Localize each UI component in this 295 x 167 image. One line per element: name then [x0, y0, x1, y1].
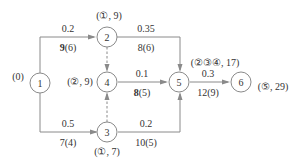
- edge-3-5: 0.2 10(5): [118, 92, 183, 149]
- node-6-label: 6: [239, 77, 244, 88]
- node-3: 3 (①, 7): [94, 122, 120, 158]
- arrowhead-icon: [222, 80, 230, 85]
- arrowhead-icon: [88, 35, 96, 40]
- node-1-label: 1: [38, 78, 43, 89]
- node-1: 1 (0): [12, 71, 50, 93]
- node-3-label: 3: [105, 127, 110, 138]
- edge-3-5-bottom-label: 10(5): [135, 137, 157, 149]
- node-2-label: 2: [105, 32, 110, 43]
- edge-1-3-bottom-label: 7(4): [60, 137, 77, 149]
- edge-2-5-top-label: 0.35: [137, 23, 155, 34]
- edge-3-4-dummy: [105, 92, 110, 122]
- arrowhead-icon: [160, 80, 168, 85]
- arrowhead-icon: [105, 64, 110, 72]
- node-6-annotation: (⑤, 29): [258, 81, 289, 93]
- edge-5-6-bottom-label: 12(9): [197, 87, 219, 99]
- edge-4-5: 0.1 8(5): [118, 68, 168, 99]
- edge-4-5-top-label: 0.1: [136, 68, 149, 79]
- node-2: 2 (①, 9): [96, 10, 122, 47]
- node-3-annotation: (①, 7): [94, 146, 120, 158]
- node-4: 4 (②, 9): [67, 72, 117, 92]
- edge-4-5-bottom-label: 8(5): [134, 87, 151, 99]
- edge-5-6-top-label: 0.3: [202, 68, 215, 79]
- node-5-label: 5: [177, 77, 182, 88]
- edge-1-2-top-label: 0.2: [62, 23, 75, 34]
- node-2-annotation: (①, 9): [96, 10, 122, 22]
- node-1-annotation: (0): [12, 71, 24, 83]
- edge-3-5-top-label: 0.2: [140, 118, 153, 129]
- edge-2-5-bottom-label: 8(6): [138, 42, 155, 54]
- node-6: 6 (⑤, 29): [231, 72, 288, 93]
- node-4-label: 4: [105, 77, 110, 88]
- node-4-annotation: (②, 9): [67, 76, 93, 88]
- arrowhead-icon: [105, 92, 110, 100]
- edge-1-3: 0.5 7(4): [40, 93, 98, 149]
- edge-1-2-bottom-label: 9(6): [60, 42, 77, 54]
- edge-2-4-dummy: [105, 47, 110, 72]
- arrowhead-icon: [178, 64, 183, 72]
- edge-2-5: 0.35 8(6): [116, 23, 183, 72]
- edge-1-2: 0.2 9(6): [40, 23, 96, 73]
- edge-5-6: 0.3 12(9): [190, 68, 230, 99]
- edge-1-3-top-label: 0.5: [62, 118, 75, 129]
- arrowhead-icon: [178, 92, 183, 100]
- network-diagram: 0.2 9(6) 0.5 7(4) 0.35 8(6) 0.1 8(5) 0.2…: [0, 0, 295, 167]
- node-5-annotation: (②③④, 17): [191, 57, 240, 69]
